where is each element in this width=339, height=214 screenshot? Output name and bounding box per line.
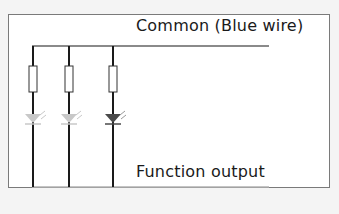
branch-1 xyxy=(25,46,46,187)
branch-3 xyxy=(105,46,126,187)
function-output-label: Function output xyxy=(136,162,265,181)
resistor-icon xyxy=(29,66,37,92)
branch-2 xyxy=(61,46,82,187)
resistor-icon xyxy=(65,66,73,92)
diagram-canvas: Common (Blue wire) Function output xyxy=(0,0,339,214)
led-icon-on xyxy=(105,111,126,124)
led-icon-off xyxy=(61,111,82,124)
resistor-icon xyxy=(109,66,117,92)
led-icon-off xyxy=(25,111,46,124)
common-label: Common (Blue wire) xyxy=(136,16,303,35)
